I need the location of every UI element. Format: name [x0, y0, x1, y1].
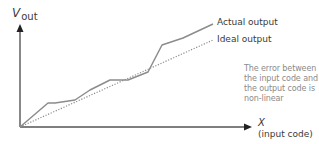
x-axis-label: X [258, 118, 265, 128]
y-axis-subscript: out [21, 11, 37, 22]
y-axis-arrow-icon [17, 24, 24, 32]
y-axis-label: Vout [12, 7, 38, 19]
x-axis-arrow-icon [244, 124, 252, 131]
ideal-output-line [20, 40, 213, 127]
legend-ideal-output: Ideal output [217, 35, 271, 44]
legend-actual-output: Actual output [217, 18, 278, 27]
actual-output-line [20, 24, 213, 127]
error-annotation: The error between the input code and the… [244, 64, 319, 104]
x-axis-sublabel: (input code) [258, 130, 313, 139]
